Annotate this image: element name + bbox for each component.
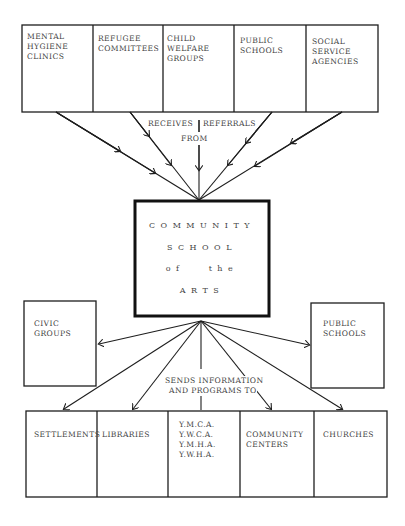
referral-label-referrals: REFERRALS: [203, 119, 256, 129]
referral-label-receives: RECEIVES: [148, 119, 193, 129]
referral-arrows: [56, 112, 342, 200]
top-cell-child-welfare-groups: CHILD WELFARE GROUPS: [167, 34, 210, 64]
center-title-community: COMMUNITY: [135, 221, 269, 230]
top-cell-public-schools: PUBLIC SCHOOLS: [240, 36, 283, 56]
civic-groups-box: [24, 301, 96, 386]
sends-label-line1: SENDS INFORMATION: [165, 376, 264, 386]
community-school-diagram: MENTAL HYGIENE CLINICS REFUGEE COMMITTEE…: [0, 0, 405, 526]
center-title-of-the: of the: [135, 264, 269, 273]
bottom-cell-libraries: LIBRARIES: [102, 430, 150, 440]
bottom-cell-settlements: SETTLEMENTS: [34, 430, 100, 440]
side-box-public-schools-label: PUBLIC SCHOOLS: [323, 319, 366, 339]
bottom-cell-ymca-ywca-ymha-ywha: Y.M.C.A. Y.W.C.A. Y.M.H.A. Y.W.H.A.: [179, 420, 216, 460]
sends-label-line2: AND PROGRAMS TO: [169, 386, 257, 396]
top-cell-refugee-committees: REFUGEE COMMITTEES: [98, 34, 159, 54]
referral-label-from: FROM: [181, 134, 208, 144]
top-cell-social-service-agencies: SOCIAL SERVICE AGENCIES: [312, 37, 359, 67]
public-schools-side-box: [311, 303, 384, 388]
sends-arrows: [64, 321, 342, 410]
top-cell-mental-hygiene-clinics: MENTAL HYGIENE CLINICS: [27, 32, 68, 62]
center-title-school: SCHOOL: [135, 243, 269, 252]
bottom-cell-community-centers: COMMUNITY CENTERS: [246, 430, 303, 450]
bottom-cell-churches: CHURCHES: [323, 430, 374, 440]
side-box-civic-groups-label: CIVIC GROUPS: [34, 319, 71, 339]
center-title-arts: ARTS: [135, 286, 269, 295]
center-box: [135, 201, 269, 316]
